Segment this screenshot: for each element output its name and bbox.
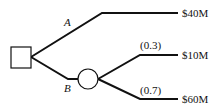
chance-node-circle [78, 69, 98, 89]
decision-node-square [11, 47, 31, 68]
outcome-a-value: $40M [182, 7, 209, 19]
outcome-1-line [98, 55, 178, 79]
probability-2-label: (0.7) [140, 84, 161, 97]
branch-b-label: B [64, 82, 71, 94]
outcome-b1-value: $10M [182, 49, 209, 61]
outcome-b2-value: $60M [182, 93, 209, 105]
probability-1-label: (0.3) [140, 39, 161, 52]
decision-tree-diagram: A B (0.3) (0.7) $40M $10M $60M [0, 0, 217, 109]
outcome-2-line [98, 79, 178, 99]
branch-a-label: A [63, 16, 71, 28]
branch-b-line [31, 57, 78, 79]
